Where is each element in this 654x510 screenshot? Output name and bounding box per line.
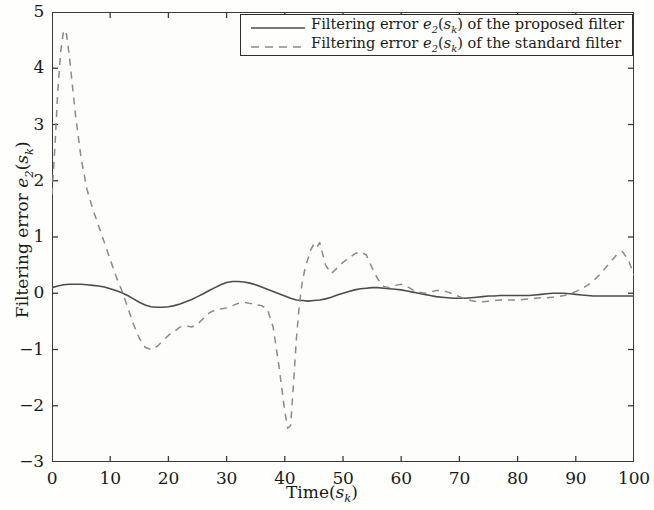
x-axis-title-prefix: Time(	[286, 482, 336, 502]
legend-swatch-dashed	[249, 41, 307, 53]
y-tick-label: −2	[4, 397, 44, 414]
series-line-proposed	[52, 281, 634, 307]
legend-label-standard: Filtering error e2(sk) of the standard f…	[307, 36, 621, 57]
legend-box: Filtering error e2(sk) of the proposed f…	[240, 14, 633, 56]
y-axis-title-suffix: )	[12, 141, 32, 148]
y-axis-title-sub1: 2	[22, 170, 36, 177]
legend-swatch-solid	[249, 22, 307, 34]
x-axis-title: Time(sk)	[0, 482, 644, 505]
y-axis-title-prefix: Filtering error	[12, 188, 32, 318]
y-tick-label: 4	[4, 59, 44, 76]
y-tick-label: −3	[4, 453, 44, 470]
y-tick-label: 5	[4, 3, 44, 20]
x-axis-title-suffix: )	[351, 482, 358, 502]
axis-ticks	[52, 12, 634, 462]
y-axis-title-var2: s	[12, 155, 32, 164]
series-line-standard	[52, 30, 634, 428]
y-axis-title-sub2: k	[22, 148, 36, 155]
y-axis-title-mid: (	[12, 164, 32, 171]
y-axis-title: Filtering error e2(sk)	[12, 110, 35, 350]
y-axis-title-var: e	[12, 178, 32, 188]
plot-canvas	[52, 12, 634, 462]
legend-entry-standard: Filtering error e2(sk) of the standard f…	[249, 37, 626, 56]
